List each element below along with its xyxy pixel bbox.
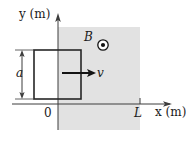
diagram-canvas (0, 0, 186, 144)
velocity-label: v (97, 67, 104, 79)
magnetic-field-label: B (84, 31, 93, 43)
side-length-label: a (16, 67, 23, 79)
x-tick-label-L: L (134, 107, 142, 119)
circle-dot-icon-center (101, 43, 105, 47)
physics-diagram-figure: y (m) x (m) 0 L a v B (0, 0, 186, 144)
x-axis-label: x (m) (155, 106, 186, 118)
origin-label: 0 (44, 107, 52, 119)
y-axis-label: y (m) (19, 8, 50, 20)
